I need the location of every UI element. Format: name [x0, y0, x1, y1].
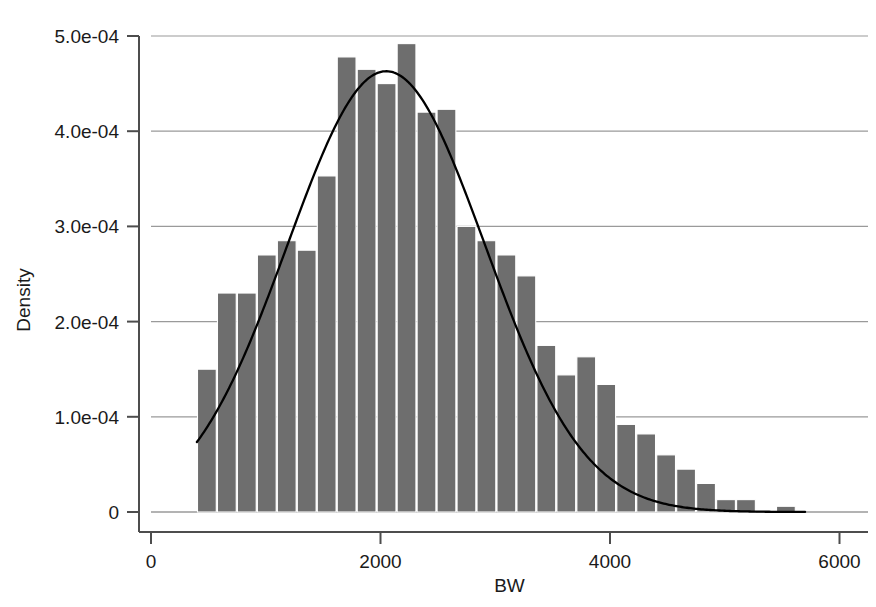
chart-canvas: 01.0e-042.0e-043.0e-044.0e-045.0e-04 020…	[0, 0, 876, 607]
histogram-bar	[457, 226, 476, 512]
histogram-bar	[297, 250, 316, 512]
x-axis-title: BW	[494, 575, 525, 596]
x-tick-label: 0	[146, 551, 157, 572]
histogram-figure: 01.0e-042.0e-043.0e-044.0e-045.0e-04 020…	[0, 0, 876, 607]
histogram-bar	[577, 357, 596, 512]
histogram-bar	[357, 69, 376, 512]
histogram-bar	[198, 369, 217, 512]
histogram-bar	[257, 255, 276, 512]
histogram-bar	[417, 112, 436, 512]
y-tick-label: 4.0e-04	[55, 121, 120, 142]
y-tick-label: 3.0e-04	[55, 216, 120, 237]
y-tick-label: 5.0e-04	[55, 26, 120, 47]
histogram-bar	[517, 276, 536, 512]
histogram-bar	[237, 293, 256, 512]
histogram-bar	[437, 109, 456, 512]
histogram-bar	[497, 255, 516, 512]
y-axis-title: Density	[13, 268, 34, 332]
histogram-bar	[377, 84, 396, 512]
y-tick-label: 1.0e-04	[55, 407, 120, 428]
histogram-bar	[697, 483, 716, 512]
histogram-bar	[617, 424, 636, 512]
x-tick-label: 4000	[589, 551, 631, 572]
histogram-bar	[337, 57, 356, 512]
histogram-bar	[397, 44, 416, 512]
histogram-bar	[557, 375, 576, 512]
y-tick-label: 2.0e-04	[55, 312, 120, 333]
histogram-bar	[597, 384, 616, 512]
histogram-bar	[277, 241, 296, 512]
histogram-bar	[317, 176, 336, 512]
histogram-bar	[477, 241, 496, 512]
histogram-bar	[537, 345, 556, 512]
y-tick-label: 0	[108, 502, 119, 523]
x-tick-label: 6000	[818, 551, 860, 572]
x-tick-label: 2000	[359, 551, 401, 572]
